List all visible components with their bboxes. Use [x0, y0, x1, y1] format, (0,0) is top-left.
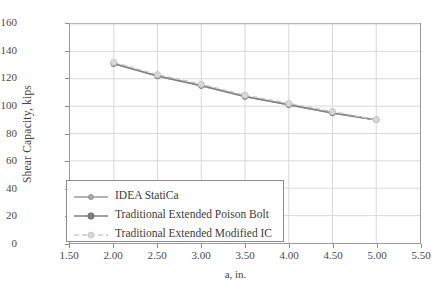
y-tick-mark — [65, 134, 69, 135]
x-tick-mark — [113, 244, 114, 248]
y-tick-label: 120 — [0, 72, 17, 83]
x-tick-label: 1.50 — [48, 250, 90, 261]
x-tick-label: 3.00 — [180, 250, 222, 261]
x-tick-label: 4.50 — [312, 250, 354, 261]
legend-label-series-0: IDEA StatiCa — [115, 189, 179, 201]
x-tick-label: 4.00 — [268, 250, 310, 261]
legend-label-series-1: Traditional Extended Poison Bolt — [115, 208, 269, 220]
x-tick-label: 5.50 — [400, 250, 442, 261]
y-tick-label: 140 — [0, 45, 17, 56]
legend: IDEA StatiCa Traditional Extended Poison… — [66, 180, 284, 242]
data-point-marker — [198, 81, 204, 87]
x-tick-mark — [245, 244, 246, 248]
x-tick-label: 2.00 — [92, 250, 134, 261]
y-tick-label: 160 — [0, 17, 17, 28]
x-tick-label: 5.00 — [356, 250, 398, 261]
y-tick-label: 100 — [0, 100, 17, 111]
x-tick-mark — [289, 244, 290, 248]
shear-capacity-chart: Shear Capacity, kips 0204060801001201401… — [0, 0, 442, 293]
x-tick-mark — [421, 244, 422, 248]
legend-swatch-series-1 — [73, 208, 109, 220]
y-tick-mark — [65, 161, 69, 162]
legend-item[interactable]: Traditional Extended Poison Bolt — [67, 204, 283, 223]
y-tick-mark — [65, 23, 69, 24]
x-tick-mark — [157, 244, 158, 248]
legend-label-series-2: Traditional Extended Modified IC — [115, 227, 272, 239]
x-tick-mark — [201, 244, 202, 248]
x-axis-title: a, in. — [50, 268, 421, 280]
y-tick-label: 80 — [0, 128, 17, 139]
x-tick-mark — [69, 244, 70, 248]
data-point-marker — [329, 109, 335, 115]
y-tick-label: 60 — [0, 155, 17, 166]
legend-item[interactable]: Traditional Extended Modified IC — [67, 223, 283, 242]
data-point-marker — [286, 100, 292, 106]
legend-swatch-series-2 — [73, 227, 109, 239]
x-tick-mark — [377, 244, 378, 248]
data-point-marker — [373, 117, 379, 123]
y-tick-mark — [65, 51, 69, 52]
data-point-marker — [242, 92, 248, 98]
legend-swatch-series-0 — [73, 189, 109, 201]
data-point-marker — [111, 59, 117, 65]
x-tick-label: 2.50 — [136, 250, 178, 261]
y-axis-title: Shear Capacity, kips — [21, 44, 33, 224]
y-tick-mark — [65, 78, 69, 79]
x-tick-mark — [333, 244, 334, 248]
y-tick-label: 40 — [0, 183, 17, 194]
x-tick-label: 3.50 — [224, 250, 266, 261]
legend-item[interactable]: IDEA StatiCa — [67, 185, 283, 204]
y-tick-label: 0 — [0, 238, 17, 249]
data-point-marker — [154, 72, 160, 78]
y-tick-label: 20 — [0, 210, 17, 221]
y-tick-mark — [65, 106, 69, 107]
